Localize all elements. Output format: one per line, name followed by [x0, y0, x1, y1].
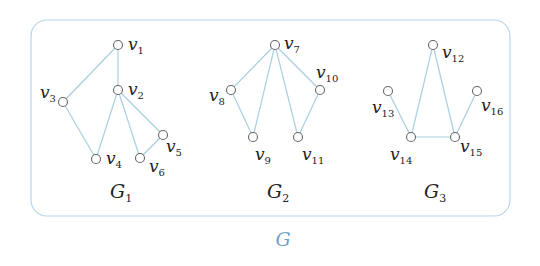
subgraph-label-g2: G2 — [267, 180, 289, 205]
edge-v7-v9 — [253, 45, 275, 137]
edge-v3-v4 — [63, 102, 96, 159]
node-label-v4: v4 — [106, 148, 122, 170]
node-v7 — [271, 41, 280, 50]
node-label-v7: v7 — [284, 33, 300, 55]
node-v14 — [407, 133, 416, 142]
node-v2 — [114, 86, 123, 95]
node-v11 — [294, 133, 303, 142]
edge-v8-v9 — [231, 90, 253, 137]
node-label-v8: v8 — [209, 85, 225, 107]
node-v12 — [429, 41, 438, 50]
node-label-v10: v10 — [316, 62, 338, 84]
node-v1 — [114, 41, 123, 50]
node-label-v2: v2 — [128, 79, 144, 101]
graph-title: G — [275, 228, 290, 250]
node-v3 — [59, 98, 68, 107]
edges-layer — [63, 45, 477, 159]
node-v4 — [92, 155, 101, 164]
node-label-v5: v5 — [166, 136, 182, 158]
node-v8 — [227, 86, 236, 95]
node-label-v13: v13 — [372, 97, 394, 119]
node-label-v12: v12 — [442, 42, 464, 64]
subgraph-label-g3: G3 — [424, 180, 446, 205]
graph-diagram: v1v2v3v4v5v6G1v7v8v9v10v11G2v12v13v14v15… — [0, 0, 540, 266]
edge-v12-v14 — [411, 45, 433, 137]
node-label-v15: v15 — [460, 136, 482, 158]
edge-v15-v16 — [455, 91, 477, 137]
node-v10 — [316, 86, 325, 95]
node-v6 — [136, 154, 145, 163]
node-label-v9: v9 — [255, 144, 271, 166]
edge-v10-v11 — [298, 90, 320, 137]
edge-v7-v8 — [231, 45, 275, 90]
edge-v1-v3 — [63, 45, 118, 102]
node-label-v16: v16 — [481, 95, 503, 117]
node-label-v6: v6 — [149, 156, 165, 178]
node-v15 — [451, 133, 460, 142]
node-v9 — [249, 133, 258, 142]
node-v13 — [384, 87, 393, 96]
node-label-v11: v11 — [302, 144, 324, 166]
subgraph-label-g1: G1 — [110, 180, 132, 205]
node-label-v14: v14 — [390, 144, 412, 166]
edge-v7-v11 — [275, 45, 298, 137]
node-label-v1: v1 — [128, 34, 144, 56]
node-label-v3: v3 — [40, 82, 56, 104]
